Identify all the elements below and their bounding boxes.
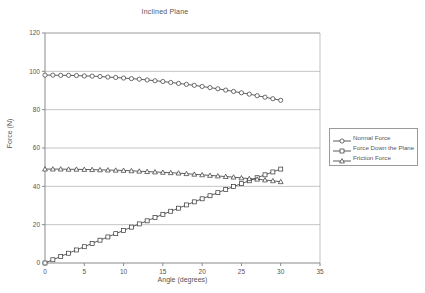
series-line [45, 75, 281, 100]
x-tick-label: 20 [199, 268, 207, 275]
chart-container: Inclined Plane Force (N) Angle (degrees)… [0, 0, 425, 293]
data-point-circle [82, 74, 86, 78]
data-point-circle [200, 84, 204, 88]
y-tick-label: 80 [33, 106, 41, 113]
data-point-circle [90, 74, 94, 78]
legend-item-1[interactable]: Normal Force [332, 132, 414, 142]
data-point-square [82, 245, 86, 249]
x-tick-label: 15 [159, 268, 167, 275]
data-point-circle [263, 95, 267, 99]
data-point-circle [153, 79, 157, 83]
data-point-circle [255, 94, 259, 98]
data-point-square [106, 235, 110, 239]
x-tick-label: 5 [82, 268, 86, 275]
data-point-square [192, 200, 196, 204]
data-point-square [177, 206, 181, 210]
data-point-circle [247, 92, 251, 96]
data-point-circle [114, 75, 118, 79]
data-point-square [98, 238, 102, 242]
data-point-circle [121, 76, 125, 80]
data-point-square [67, 251, 71, 255]
data-point-square [224, 188, 228, 192]
data-point-square [184, 203, 188, 207]
data-point-circle [279, 98, 283, 102]
data-point-circle [161, 79, 165, 83]
data-point-circle [106, 75, 110, 79]
data-point-square [114, 232, 118, 236]
data-point-square [74, 248, 78, 252]
data-point-circle [192, 83, 196, 87]
y-tick-label: 100 [29, 68, 40, 75]
x-tick-label: 25 [238, 268, 246, 275]
data-point-square [145, 219, 149, 223]
data-point-circle [74, 73, 78, 77]
data-point-square [51, 258, 55, 262]
data-point-circle [43, 73, 47, 77]
data-point-square [169, 209, 173, 213]
data-point-square [216, 191, 220, 195]
data-point-circle [184, 82, 188, 86]
legend-item-3[interactable]: Friction Force [332, 152, 414, 162]
series-2 [43, 167, 283, 265]
legend-marker-square-icon [332, 142, 352, 152]
data-point-circle [51, 73, 55, 77]
data-point-square [90, 241, 94, 245]
data-point-square [59, 254, 63, 258]
data-point-square [137, 222, 141, 226]
data-point-circle [208, 86, 212, 90]
data-point-square [43, 261, 47, 265]
series-1 [43, 73, 283, 102]
chart-legend: Normal ForceForce Down the PlaneFriction… [329, 128, 418, 166]
data-point-circle [66, 73, 70, 77]
data-point-square [271, 170, 275, 174]
data-point-circle [231, 89, 235, 93]
data-point-square [129, 225, 133, 229]
data-point-square [232, 185, 236, 189]
data-point-circle [169, 80, 173, 84]
x-tick-label: 10 [120, 268, 128, 275]
y-tick-label: 120 [29, 29, 40, 36]
x-tick-label: 30 [277, 268, 285, 275]
data-point-circle [216, 87, 220, 91]
data-point-circle [98, 74, 102, 78]
legend-marker-triangle-icon [332, 152, 352, 162]
data-point-circle [59, 73, 63, 77]
data-point-circle [239, 91, 243, 95]
y-tick-label: 40 [33, 183, 41, 190]
x-tick-label: 35 [316, 268, 324, 275]
data-point-square [279, 167, 283, 171]
data-point-square [239, 182, 243, 186]
data-point-square [153, 216, 157, 220]
legend-label: Force Down the Plane [352, 144, 414, 151]
legend-item-2[interactable]: Force Down the Plane [332, 142, 414, 152]
data-point-circle [176, 81, 180, 85]
data-point-square [208, 194, 212, 198]
data-point-square [161, 212, 165, 216]
data-point-circle [137, 77, 141, 81]
y-tick-label: 0 [36, 259, 40, 266]
legend-marker-circle-icon [332, 132, 352, 142]
x-tick-label: 0 [43, 268, 47, 275]
data-point-circle [145, 78, 149, 82]
data-point-square [263, 173, 267, 177]
y-tick-label: 20 [33, 221, 41, 228]
data-point-square [122, 228, 126, 232]
data-point-circle [129, 77, 133, 81]
legend-label: Friction Force [352, 154, 391, 161]
data-point-circle [271, 97, 275, 101]
data-point-square [200, 197, 204, 201]
legend-label: Normal Force [352, 134, 390, 141]
data-point-circle [224, 88, 228, 92]
y-tick-label: 60 [33, 144, 41, 151]
